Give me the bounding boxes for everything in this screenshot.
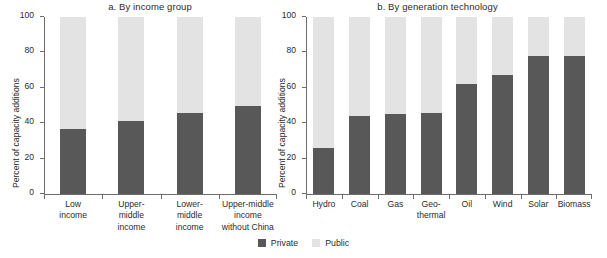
legend-item-public: Public <box>312 238 349 248</box>
bar-stack <box>492 17 513 194</box>
bar-segment-private <box>313 148 334 194</box>
panel-a-title: a. By income group <box>0 1 300 12</box>
panel-y-tick-label: 100 <box>20 10 34 20</box>
legend-swatch-private-icon <box>258 239 266 247</box>
panel-y-tick: 40 <box>40 122 44 123</box>
chart-panel-a: a. By income group Percent of capacity a… <box>0 0 300 232</box>
bar-segment-private <box>235 106 261 195</box>
bar-segment-private <box>118 121 144 194</box>
panel-b-y-axis <box>306 17 307 196</box>
x-axis-category-label: Biomass <box>547 199 601 210</box>
bar-segment-private <box>385 114 406 194</box>
panel-b-title: b. By generation technology <box>268 1 607 12</box>
legend-label-public: Public <box>325 238 349 248</box>
bar-stack <box>349 17 370 194</box>
panel-y-tick: 80 <box>40 51 44 52</box>
bar-segment-private <box>177 113 203 194</box>
panel-y-tick: 0 <box>302 193 306 194</box>
bar-segment-private <box>349 116 370 194</box>
bar-segment-private <box>456 84 477 194</box>
panel-y-tick: 60 <box>302 87 306 88</box>
bar-segment-private <box>60 129 86 194</box>
panel-y-tick: 20 <box>302 158 306 159</box>
bar-stack <box>235 17 261 194</box>
panel-y-tick-label: 40 <box>24 116 34 126</box>
bar-segment-private <box>564 56 585 194</box>
panel-y-tick: 100 <box>302 16 306 17</box>
panel-y-tick-label: 80 <box>286 45 296 55</box>
bar-stack <box>313 17 334 194</box>
panel-b-plot-area: 020406080100 <box>306 17 592 195</box>
panel-y-tick-label: 60 <box>286 81 296 91</box>
panel-y-tick: 20 <box>40 158 44 159</box>
bar-stack <box>421 17 442 194</box>
panel-y-tick: 100 <box>40 16 44 17</box>
bar-segment-private <box>492 75 513 194</box>
panel-y-tick-label: 80 <box>24 45 34 55</box>
panel-y-tick-label: 0 <box>29 187 34 197</box>
panel-y-tick-label: 20 <box>286 152 296 162</box>
bar-stack <box>60 17 86 194</box>
panel-b-y-axis-label: Percent of capacity additions <box>277 78 287 188</box>
figure: a. By income group Percent of capacity a… <box>0 0 607 258</box>
panel-y-tick-label: 20 <box>24 152 34 162</box>
panel-y-tick: 40 <box>302 122 306 123</box>
panel-y-tick-label: 60 <box>24 81 34 91</box>
bar-stack <box>528 17 549 194</box>
bar-stack <box>118 17 144 194</box>
panel-y-tick: 0 <box>40 193 44 194</box>
panel-a-y-axis-label: Percent of capacity additions <box>11 78 21 188</box>
bar-stack <box>385 17 406 194</box>
chart-legend: Private Public <box>0 238 607 248</box>
bar-segment-private <box>528 56 549 194</box>
panel-y-tick-label: 0 <box>291 187 296 197</box>
bar-stack <box>564 17 585 194</box>
panel-y-tick: 80 <box>302 51 306 52</box>
legend-swatch-public-icon <box>312 239 320 247</box>
panel-a-plot-area: 020406080100 <box>44 17 277 195</box>
panel-a-y-axis <box>44 17 45 196</box>
bar-stack <box>456 17 477 194</box>
panel-y-tick-label: 40 <box>286 116 296 126</box>
chart-panel-b: b. By generation technology Percent of c… <box>268 0 607 232</box>
panel-y-tick-label: 100 <box>282 10 296 20</box>
legend-item-private: Private <box>258 238 298 248</box>
panel-y-tick: 60 <box>40 87 44 88</box>
bar-stack <box>177 17 203 194</box>
legend-label-private: Private <box>271 238 298 248</box>
bar-segment-private <box>421 113 442 194</box>
